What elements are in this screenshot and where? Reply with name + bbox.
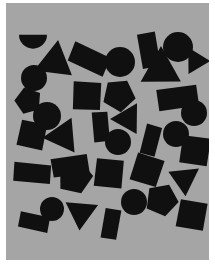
shape-circle <box>21 65 47 91</box>
shape-field <box>6 3 209 260</box>
shape-square <box>73 81 101 110</box>
shape-semicircle <box>19 35 47 49</box>
shape-circle <box>105 129 131 155</box>
shape-square <box>94 158 124 188</box>
shape-square <box>176 199 208 231</box>
shape-panel <box>6 3 209 260</box>
shape-square <box>16 120 47 151</box>
shape-pentagon <box>147 185 179 217</box>
shape-triangle <box>66 202 98 230</box>
shape-rectangle <box>101 208 122 240</box>
shape-rectangle <box>13 162 51 184</box>
shape-square <box>179 135 209 166</box>
shape-square <box>130 153 165 187</box>
shape-triangle <box>188 48 209 74</box>
shape-rectangle <box>68 41 111 77</box>
shape-rectangle <box>140 124 162 157</box>
shape-circle <box>121 189 147 215</box>
shape-circle <box>105 47 135 77</box>
stimulus-canvas <box>0 0 215 267</box>
shape-circle <box>181 100 207 126</box>
